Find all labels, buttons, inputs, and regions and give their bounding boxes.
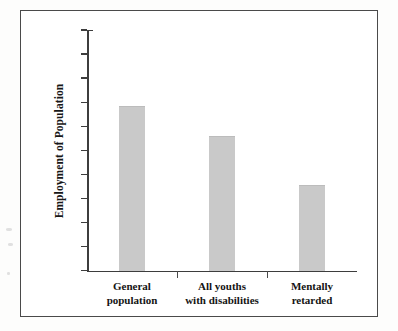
y-axis-tick [81,198,87,199]
y-axis-tick [81,174,87,175]
y-axis-tick [81,270,87,271]
y-axis-tick [81,77,87,78]
scan-speckle [8,243,13,246]
category-label-line: retarded [237,293,387,307]
chart-frame: Employment of Population 010203040506070… [20,10,378,317]
y-axis-tick [81,246,87,247]
y-axis-top-cap [87,30,93,31]
y-axis-line [87,30,89,272]
bar [299,185,325,271]
category-label-line: Mentally [237,279,387,293]
bar [209,136,235,272]
bar [119,106,145,272]
y-axis-tick [81,53,87,54]
scanned-page: Employment of Population 010203040506070… [0,0,398,331]
category-separator-tick [267,271,268,278]
y-axis-tick [81,150,87,151]
scan-speckle [6,228,12,231]
y-axis-tick [81,126,87,127]
y-axis-title: Employment of Population [53,51,65,251]
y-axis-tick [81,29,87,30]
category-separator-tick [177,271,178,278]
y-axis-title-holder: Employment of Population [39,30,63,272]
y-axis-tick [81,102,87,103]
category-label: Mentallyretarded [237,279,387,307]
y-axis-tick [81,222,87,223]
scan-speckle [7,272,10,275]
bar-chart: Employment of Population 010203040506070… [21,11,379,318]
